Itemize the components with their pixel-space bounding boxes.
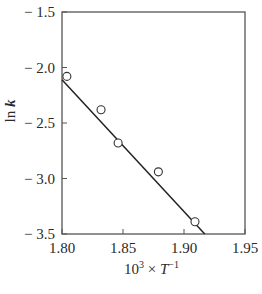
plot-border xyxy=(62,12,245,234)
y-tick-label: − 3.0 xyxy=(24,171,55,187)
data-point-open-circle xyxy=(63,72,71,80)
data-point-open-circle xyxy=(97,106,105,114)
fit-line xyxy=(62,80,205,234)
y-axis-label-text: ln k xyxy=(2,99,18,122)
x-tick-label: 1.95 xyxy=(232,240,258,256)
y-tick-label: − 1.5 xyxy=(24,4,55,20)
x-tick-label: 1.90 xyxy=(171,240,197,256)
data-point-open-circle xyxy=(154,168,162,176)
plot-frame xyxy=(62,12,245,234)
data-points xyxy=(63,72,199,225)
data-point-open-circle xyxy=(191,218,199,226)
chart: − 1.5− 2.0− 2.5− 3.0− 3.5 1.801.851.901.… xyxy=(0,0,262,294)
x-axis-ticks: 1.801.851.901.95 xyxy=(49,229,258,256)
data-point-open-circle xyxy=(114,139,122,147)
regression-line xyxy=(62,80,205,234)
y-axis-ticks: − 1.5− 2.0− 2.5− 3.0− 3.5 xyxy=(24,4,67,242)
x-tick-label: 1.80 xyxy=(49,240,75,256)
x-axis-label: 103 × T−1 xyxy=(124,259,179,277)
y-tick-label: − 2.5 xyxy=(24,115,55,131)
y-axis-label: ln k xyxy=(2,99,18,122)
y-tick-label: − 2.0 xyxy=(24,60,55,76)
x-tick-label: 1.85 xyxy=(110,240,136,256)
x-axis-label-text: 103 × T−1 xyxy=(124,259,179,277)
